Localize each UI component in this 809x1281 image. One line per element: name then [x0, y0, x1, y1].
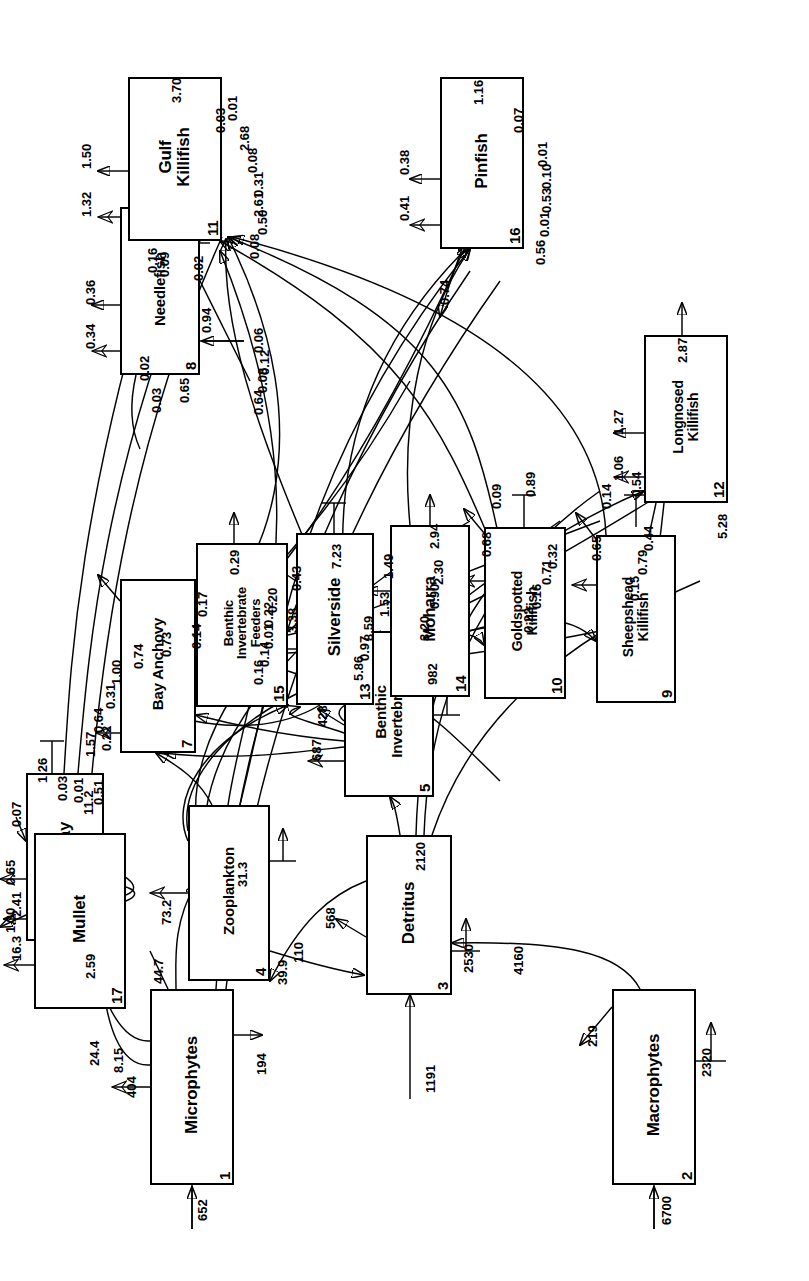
flow-value-label: 1.53	[378, 592, 391, 617]
flow-value-label: 2.94	[428, 524, 441, 549]
flow-value-label: 0.01	[538, 212, 551, 237]
flow-value-label: 0.02	[192, 256, 205, 281]
flow-value-label: 3.20	[418, 616, 431, 641]
flow-value-label: 0.79	[636, 550, 649, 575]
flow-value-label: 0.74	[132, 644, 145, 669]
flow-value-label: 0.07	[10, 802, 23, 827]
flow-value-label: 0.14	[190, 624, 203, 649]
flow-value-label: 0.03	[56, 776, 69, 801]
flow-value-label: 652	[196, 1199, 209, 1221]
node-index: 4	[253, 968, 268, 976]
node-index: 11	[205, 221, 220, 236]
flow-value-label: 3.70	[170, 78, 183, 103]
flow-value-label: 1.16	[472, 80, 485, 105]
flow-value-label: 0.64	[252, 390, 265, 415]
node-index: 1	[217, 1172, 232, 1180]
flow-value-label: 2530	[462, 944, 475, 973]
node-macrophytes[interactable]: 2Macrophytes	[612, 989, 696, 1185]
node-index: 17	[109, 988, 124, 1004]
flow-value-label: 6700	[660, 1196, 673, 1225]
flow-value-label: 2.68	[238, 126, 251, 151]
node-label: Zooplankton	[221, 838, 237, 948]
flow-value-label: 8.15	[112, 1048, 125, 1073]
node-label: LongnosedKillifish	[671, 371, 700, 467]
flow-value-label: 0.31	[252, 172, 265, 197]
flow-value-label: 0.01	[536, 142, 549, 167]
flow-value-label: 1.50	[80, 144, 93, 169]
flow-value-label: 1.32	[80, 192, 93, 217]
flow-value-label: 0.29	[228, 550, 241, 575]
node-mullet[interactable]: 17Mullet	[34, 833, 126, 1009]
flow-value-label: 1.57	[84, 732, 97, 757]
flow-value-label: 5.28	[716, 514, 729, 539]
figure-page: 1Microphytes2Macrophytes3Detritus4Zoopla…	[0, 0, 809, 1281]
flow-value-label: 982	[426, 663, 439, 685]
flow-value-label: 1.27	[612, 410, 625, 435]
flow-value-label: 0.43	[290, 566, 303, 591]
node-index: 10	[549, 678, 564, 694]
flow-value-label: 404	[125, 1076, 138, 1098]
node-index: 13	[357, 684, 372, 700]
flow-value-label: 2120	[414, 842, 427, 871]
flow-value-label: 0.32	[546, 544, 559, 569]
flow-value-label: 0.08	[248, 234, 261, 259]
flow-value-label: 0.73	[160, 632, 173, 657]
flow-value-label: 1191	[424, 1065, 437, 1093]
node-label: Mullet	[71, 886, 89, 956]
flow-value-label: 219	[586, 1025, 599, 1047]
flow-value-label: 0.53	[540, 188, 553, 213]
flow-value-label: 3.38	[286, 608, 299, 633]
flow-value-label: 1.30	[4, 908, 17, 933]
flow-value-label: 0.65	[4, 860, 17, 885]
flow-value-label: 0.51	[92, 780, 105, 805]
flow-value-label: 16.3	[10, 936, 23, 961]
flow-value-label: 0.06	[252, 328, 265, 353]
node-index: 9	[659, 690, 674, 698]
flow-value-label: 2.30	[432, 560, 445, 585]
flow-value-label: 0.54	[630, 472, 643, 497]
flow-value-label: 0.16	[530, 584, 543, 609]
flow-value-label: 1.06	[612, 456, 625, 481]
flow-value-label: 2320	[700, 1048, 713, 1077]
flow-value-label: 0.65	[178, 378, 191, 403]
flow-value-label: 1.49	[382, 554, 395, 579]
flow-value-label: 0.08	[246, 148, 259, 173]
node-microphytes[interactable]: 1Microphytes	[150, 989, 234, 1185]
flow-value-label: 0.20	[266, 588, 279, 613]
flow-value-label: 0.10	[540, 164, 553, 189]
node-index: 7	[179, 740, 194, 748]
flow-value-label: 0.89	[524, 472, 537, 497]
flow-value-label: 44.7	[152, 959, 165, 984]
node-label: Pinfish	[473, 124, 491, 201]
node-index: 2	[679, 1172, 694, 1180]
flow-value-label: 0.65	[590, 536, 603, 561]
flow-value-label: 0.31	[104, 684, 117, 709]
flow-value-label: 568	[324, 907, 337, 929]
node-zooplankton[interactable]: 4Zooplankton	[188, 805, 270, 981]
flow-value-label: 39.9	[276, 960, 289, 985]
flow-value-label: 0.02	[138, 356, 151, 381]
node-label: Macrophytes	[645, 1025, 663, 1150]
flow-value-label: 0.74	[438, 280, 451, 305]
node-detritus[interactable]: 3Detritus	[366, 835, 452, 995]
node-label: Microphytes	[183, 1027, 201, 1147]
flow-value-label: 0.22	[100, 726, 113, 751]
node-index: 8	[183, 362, 198, 370]
flow-value-label: 687	[310, 739, 323, 761]
flow-value-label: 0.14	[600, 484, 613, 509]
flow-value-label: 0.03	[150, 388, 163, 413]
flow-value-label: 0.34	[84, 324, 97, 349]
flow-value-label: 2.87	[676, 338, 689, 363]
node-index: 14	[453, 676, 468, 692]
flow-value-label: 0.09	[490, 484, 503, 509]
flow-value-label: 0.12	[258, 350, 271, 375]
flow-value-label: 110	[292, 942, 305, 963]
flow-value-label: 0.68	[480, 532, 493, 557]
node-index: 16	[507, 228, 522, 244]
flow-value-label: 8.59	[362, 616, 375, 641]
flow-value-label: 194	[255, 1053, 268, 1075]
node-index: 3	[435, 982, 450, 990]
network-diagram-canvas: 1Microphytes2Macrophytes3Detritus4Zoopla…	[0, 0, 809, 1281]
flow-value-label: 0.16	[146, 248, 159, 273]
flow-value-label: 1.26	[36, 758, 49, 783]
